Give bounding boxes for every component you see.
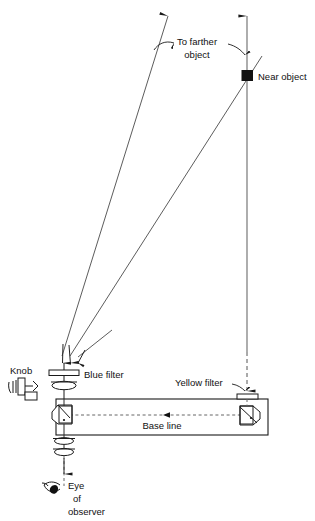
blue-filter-assembly — [49, 363, 79, 376]
figure-canvas: To farther object Near object Blue filte… — [0, 0, 315, 521]
eyepiece-assembly — [53, 438, 75, 456]
yellow-filter-assembly — [237, 394, 258, 399]
knob-icon[interactable] — [9, 378, 38, 400]
farther-object-ray-line — [62, 16, 168, 356]
near-object-marker — [242, 70, 254, 81]
near-object-ray — [70, 56, 262, 356]
farther-object-ray — [62, 16, 168, 356]
left-prism-dot — [63, 419, 65, 421]
objective-lens — [52, 381, 76, 389]
to-farther-object-leader-left — [154, 42, 174, 50]
ray-convergence-arrowheads — [63, 344, 86, 363]
rangefinder-diagram: To farther object Near object Blue filte… — [0, 0, 315, 521]
knob-fingers — [13, 380, 16, 393]
to-farther-object-label-line1: To farther — [177, 36, 217, 47]
knob-hand-curve — [9, 382, 11, 393]
objective-lens-assembly — [51, 376, 77, 400]
eye-icon — [42, 482, 60, 494]
eye-pupil — [50, 485, 58, 494]
left-prism — [52, 405, 72, 424]
base-line-arrow — [163, 412, 170, 417]
knob-body — [18, 378, 25, 395]
eye-label-line2: of — [73, 493, 81, 504]
to-farther-object-leader-right — [228, 44, 245, 55]
right-prism-assembly — [240, 406, 260, 425]
near-object-label: Near object — [258, 71, 307, 82]
arrow-into-filter-1 — [63, 344, 64, 363]
eye-label-line1: Eye — [68, 480, 84, 491]
knob-label: Knob — [10, 365, 32, 376]
yellow-filter-plate — [237, 394, 258, 399]
blue-filter-label: Blue filter — [84, 369, 124, 380]
knob-base-plate — [25, 392, 37, 400]
near-object-ray-line — [70, 56, 262, 356]
blue-filter-plate — [49, 370, 79, 376]
right-prism-dot — [250, 417, 252, 419]
knob-arrow-head — [33, 381, 38, 391]
base-line-label: Base line — [142, 420, 181, 431]
right-prism — [240, 406, 260, 425]
to-farther-object-label-line2: object — [184, 49, 210, 60]
yellow-filter-leader — [232, 384, 245, 391]
yellow-filter-label: Yellow filter — [175, 377, 223, 388]
arrow-into-filter-2 — [69, 345, 70, 363]
left-prism-assembly — [52, 405, 72, 424]
eye-label-line3: observer — [68, 506, 105, 517]
